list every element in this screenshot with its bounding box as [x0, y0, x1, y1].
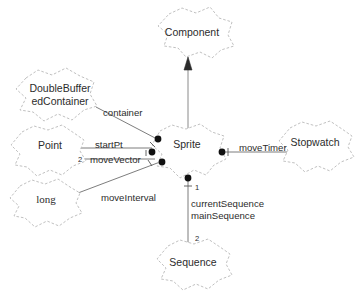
node-label-doublebuffer-line2: edContainer — [31, 95, 89, 107]
node-label-doublebuffer-line1: DoubleBuffer — [29, 82, 91, 94]
edge-label-container: container — [103, 107, 143, 118]
edge-label-currentsequence: currentSequence — [191, 198, 264, 209]
edge-generalization — [184, 57, 192, 131]
edge-label-movetimer: moveTimer — [239, 142, 287, 153]
node-label-long: long — [36, 193, 56, 205]
uml-diagram: Component Sprite DoubleBuffer edContaine… — [0, 0, 362, 298]
edge-label-startpt: startPt — [95, 139, 123, 150]
multiplicity-movevector: 2 — [78, 155, 82, 164]
node-label-sprite: Sprite — [173, 138, 201, 150]
composition-marker-movevector — [148, 159, 165, 166]
node-label-component: Component — [165, 26, 219, 38]
edge-label-movevector: moveVector — [90, 154, 141, 165]
edge-moveinterval — [78, 162, 160, 193]
diagram-canvas: Component Sprite DoubleBuffer edContaine… — [0, 0, 362, 298]
node-label-sequence: Sequence — [169, 256, 216, 268]
edge-label-mainsequence: mainSequence — [191, 210, 255, 221]
node-label-stopwatch: Stopwatch — [290, 136, 339, 148]
edge-label-moveinterval: moveInterval — [101, 192, 156, 203]
multiplicity-sprite-sequence: 1 — [195, 183, 199, 192]
composition-marker-startpt — [146, 149, 155, 156]
node-label-point: Point — [38, 139, 62, 151]
node-shape-sprite — [152, 124, 226, 178]
multiplicity-sequence: 2 — [195, 234, 199, 243]
